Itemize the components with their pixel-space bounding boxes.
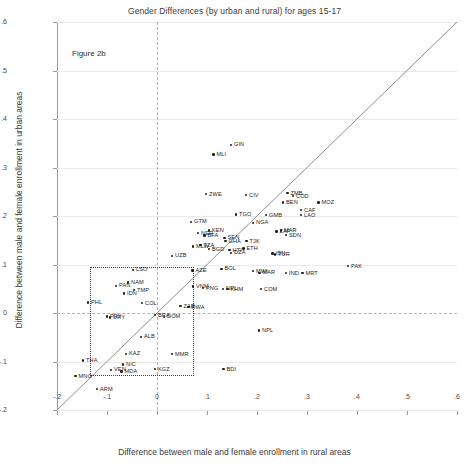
scatter-point-label: IDN bbox=[127, 290, 137, 296]
x-tick-label: .6 bbox=[445, 393, 469, 400]
y-tick-mark bbox=[53, 119, 57, 120]
scatter-point-label: KHM bbox=[231, 286, 244, 292]
scatter-point-label: TUR bbox=[278, 251, 290, 257]
scatter-point-label: GHA bbox=[229, 238, 241, 244]
scatter-point-label: MMR bbox=[175, 351, 189, 357]
x-tick-label: -.2 bbox=[45, 393, 69, 400]
scatter-point-label: MRT bbox=[306, 270, 318, 276]
scatter-point-label: KGZ bbox=[158, 366, 170, 372]
scatter-point-label: BDI bbox=[227, 366, 237, 372]
scatter-point[interactable] bbox=[242, 247, 244, 249]
scatter-point[interactable] bbox=[258, 272, 260, 274]
scatter-point[interactable] bbox=[235, 213, 237, 215]
scatter-point[interactable] bbox=[120, 370, 122, 372]
scatter-point-label: MOZ bbox=[322, 199, 335, 205]
x-tick-label: .5 bbox=[395, 393, 419, 400]
scatter-point[interactable] bbox=[87, 301, 89, 303]
x-tick-label: .1 bbox=[195, 393, 219, 400]
scatter-point[interactable] bbox=[123, 292, 125, 294]
scatter-point-label: NGA bbox=[256, 219, 268, 225]
scatter-point-label: DZA bbox=[234, 249, 246, 255]
scatter-point[interactable] bbox=[223, 237, 225, 239]
figure-tag: Figure 2b bbox=[72, 49, 106, 58]
scatter-point-label: COD bbox=[296, 193, 309, 199]
x-tick-label: .2 bbox=[245, 393, 269, 400]
x-tick-mark bbox=[257, 411, 258, 415]
scatter-point-label: TJK bbox=[250, 238, 260, 244]
scatter-point[interactable] bbox=[192, 245, 194, 247]
scatter-point-label: PAN bbox=[119, 282, 130, 288]
x-tick-mark bbox=[307, 411, 308, 415]
y-tick-label: .4 bbox=[0, 115, 7, 122]
y-tick-label: 0 bbox=[0, 309, 7, 316]
scatter-point-label: PRY bbox=[110, 313, 122, 319]
scatter-point-label: BFA bbox=[208, 232, 219, 238]
scatter-point-label: BGD bbox=[212, 246, 224, 252]
x-tick-mark bbox=[407, 411, 408, 415]
scatter-point[interactable] bbox=[203, 234, 205, 236]
x-tick-mark bbox=[207, 411, 208, 415]
scatter-point[interactable] bbox=[282, 201, 284, 203]
scatter-point-label: MAR bbox=[263, 269, 276, 275]
x-axis-title: Difference between male and female enrol… bbox=[0, 447, 469, 457]
scatter-point-label: ALB bbox=[144, 333, 155, 339]
figure-container: Gender Differences (by urban and rural) … bbox=[0, 0, 469, 475]
scatter-point-label: GIN bbox=[234, 141, 244, 147]
x-tick-mark bbox=[107, 411, 108, 415]
scatter-point[interactable] bbox=[274, 253, 276, 255]
scatter-point-label: KAZ bbox=[129, 350, 140, 356]
scatter-point-label: NAM bbox=[131, 279, 144, 285]
scatter-point[interactable] bbox=[220, 268, 222, 270]
y-tick-mark bbox=[53, 313, 57, 314]
scatter-point-label: TGO bbox=[239, 211, 251, 217]
scatter-point[interactable] bbox=[228, 249, 230, 251]
scatter-point[interactable] bbox=[275, 230, 277, 232]
y-tick-label: .1 bbox=[0, 261, 7, 268]
scatter-point-label: MDA bbox=[125, 368, 138, 374]
scatter-point-label: IND bbox=[289, 270, 299, 276]
scatter-point-label: SDN bbox=[289, 232, 301, 238]
scatter-point[interactable] bbox=[122, 363, 124, 365]
scatter-point[interactable] bbox=[106, 315, 108, 317]
chart-title: Gender Differences (by urban and rural) … bbox=[0, 6, 469, 16]
scatter-point-label: BEN bbox=[286, 199, 298, 205]
scatter-point-label: CIV bbox=[249, 192, 259, 198]
y-tick-mark bbox=[53, 265, 57, 266]
scatter-point-label: PAK bbox=[351, 263, 362, 269]
y-tick-label: .6 bbox=[0, 18, 7, 25]
scatter-point-label: GTM bbox=[194, 218, 207, 224]
scatter-point-label: NPL bbox=[262, 327, 273, 333]
scatter-point-label: ARM bbox=[100, 386, 113, 392]
scatter-point-label: PNG bbox=[206, 285, 218, 291]
scatter-point[interactable] bbox=[258, 329, 260, 331]
y-tick-mark bbox=[53, 168, 57, 169]
x-tick-label: .3 bbox=[295, 393, 319, 400]
scatter-point[interactable] bbox=[230, 144, 232, 146]
scatter-point-label: BOL bbox=[225, 265, 237, 271]
scatter-point[interactable] bbox=[191, 269, 193, 271]
x-tick-label: -.1 bbox=[95, 393, 119, 400]
scatter-point[interactable] bbox=[317, 201, 319, 203]
y-tick-label: .2 bbox=[0, 212, 7, 219]
scatter-point[interactable] bbox=[74, 375, 76, 377]
x-tick-mark bbox=[57, 411, 58, 415]
scatter-point-label: LAO bbox=[304, 212, 316, 218]
scatter-point[interactable] bbox=[280, 229, 282, 231]
plot-area: Figure 2b GINMLIZWECIVZMBCODMOZBENCAFLAO… bbox=[57, 22, 457, 410]
y-tick-mark bbox=[53, 362, 57, 363]
x-tick-label: .4 bbox=[345, 393, 369, 400]
y-tick-mark bbox=[53, 71, 57, 72]
scatter-point-label: MLI bbox=[217, 151, 227, 157]
scatter-point-label: NIC bbox=[126, 361, 136, 367]
scatter-point-label: COL bbox=[145, 300, 157, 306]
scatter-point[interactable] bbox=[199, 244, 201, 246]
scatter-point-label: UZB bbox=[175, 252, 187, 258]
scatter-point-label: ETH bbox=[247, 245, 259, 251]
scatter-point-label: PHL bbox=[91, 299, 102, 305]
scatter-point[interactable] bbox=[192, 285, 194, 287]
scatter-point[interactable] bbox=[82, 359, 84, 361]
scatter-point-label: MNG bbox=[79, 373, 92, 379]
scatter-point[interactable] bbox=[212, 153, 214, 155]
scatter-point-label: TMP bbox=[137, 287, 149, 293]
x-tick-mark bbox=[357, 411, 358, 415]
